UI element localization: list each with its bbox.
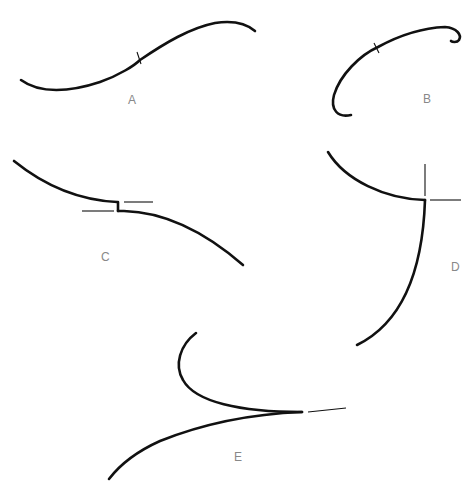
curve-d-lower	[357, 200, 425, 345]
curve-b	[333, 27, 460, 116]
panel-b	[333, 27, 460, 116]
curve-d-upper	[328, 152, 425, 200]
panel-e	[109, 333, 346, 479]
label-b: B	[423, 92, 431, 106]
label-e: E	[234, 450, 242, 464]
curve-e-upper	[179, 333, 302, 412]
label-c: C	[101, 250, 110, 264]
curve-c-lower	[118, 211, 243, 265]
panel-a	[21, 22, 255, 90]
tangent-line-e	[308, 408, 346, 412]
panel-c	[14, 161, 243, 265]
label-d: D	[451, 260, 460, 274]
curve-diagram	[0, 0, 475, 502]
label-a: A	[128, 93, 136, 107]
curve-e-lower	[109, 412, 302, 479]
panel-d	[328, 152, 461, 345]
curve-c-upper	[14, 161, 118, 211]
